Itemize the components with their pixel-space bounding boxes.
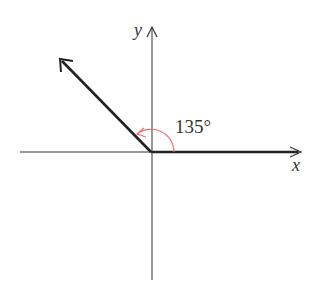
terminal-side (60, 59, 151, 152)
arc-arrow-icon (137, 128, 146, 137)
y-axis-label: y (132, 20, 142, 40)
x-axis-label: x (291, 155, 300, 175)
angle-diagram: 135° x y (0, 0, 317, 287)
angle-label: 135° (175, 116, 211, 137)
y-axis (147, 27, 157, 280)
angle-arc (137, 128, 174, 152)
